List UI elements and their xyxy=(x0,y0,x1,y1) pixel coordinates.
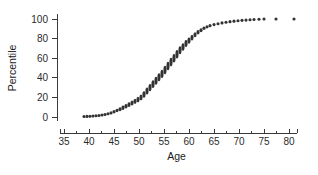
data-point xyxy=(216,22,219,25)
data-point xyxy=(106,112,109,115)
data-point xyxy=(118,107,121,111)
x-tick-label-60: 60 xyxy=(183,136,195,147)
y-axis-title: Percentile xyxy=(6,45,18,92)
x-tick-label-45: 45 xyxy=(108,136,120,147)
data-point xyxy=(240,19,243,22)
data-point xyxy=(175,50,178,58)
y-tick-label-20: 20 xyxy=(37,92,49,103)
data-point-group xyxy=(82,17,295,118)
data-point xyxy=(88,115,91,118)
data-point xyxy=(103,113,106,116)
y-tick-label-60: 60 xyxy=(37,53,49,64)
data-point xyxy=(220,21,223,24)
data-point xyxy=(151,80,154,88)
x-tick-label-80: 80 xyxy=(283,136,295,147)
data-point xyxy=(94,114,97,117)
data-point xyxy=(112,110,115,113)
x-tick-label-40: 40 xyxy=(83,136,95,147)
y-tick-label-40: 40 xyxy=(37,72,49,83)
data-point xyxy=(224,21,227,24)
data-point xyxy=(212,23,215,26)
data-point xyxy=(232,20,235,23)
data-point xyxy=(262,17,265,20)
data-point xyxy=(163,66,166,74)
data-point xyxy=(252,18,255,21)
data-point xyxy=(248,18,251,21)
x-tick-label-55: 55 xyxy=(158,136,170,147)
data-point xyxy=(257,18,260,21)
data-point xyxy=(172,54,175,63)
data-point xyxy=(145,88,148,95)
plot-area: 020406080100Percentile354045505560657075… xyxy=(0,0,318,175)
data-point xyxy=(166,62,169,71)
scatter-chart: 020406080100Percentile354045505560657075… xyxy=(0,0,318,175)
data-point xyxy=(121,105,124,109)
data-point xyxy=(202,27,205,31)
data-point xyxy=(157,73,160,81)
data-point xyxy=(196,30,199,34)
data-point xyxy=(154,77,157,85)
x-tick-label-70: 70 xyxy=(233,136,245,147)
data-point xyxy=(91,114,94,117)
data-point xyxy=(97,114,100,117)
data-point xyxy=(199,28,202,32)
data-point xyxy=(184,40,187,47)
data-point xyxy=(236,19,239,22)
data-point xyxy=(142,91,145,97)
data-point xyxy=(292,17,295,20)
data-point xyxy=(228,20,231,23)
x-tick-label-50: 50 xyxy=(133,136,145,147)
x-tick-label-35: 35 xyxy=(58,136,70,147)
data-point xyxy=(115,109,118,113)
data-point xyxy=(100,113,103,116)
data-point xyxy=(82,115,85,118)
x-tick-label-75: 75 xyxy=(258,136,270,147)
data-point xyxy=(178,46,181,54)
data-point xyxy=(244,19,247,22)
data-point xyxy=(205,25,208,28)
y-tick-label-80: 80 xyxy=(37,33,49,44)
y-tick-label-0: 0 xyxy=(42,112,48,123)
data-point xyxy=(169,58,172,67)
data-point xyxy=(124,104,127,109)
data-point xyxy=(133,99,136,104)
data-point xyxy=(181,43,184,50)
data-point xyxy=(109,111,112,114)
data-point xyxy=(190,35,193,41)
data-point xyxy=(130,100,133,105)
data-point xyxy=(274,17,277,20)
x-tick-label-65: 65 xyxy=(208,136,220,147)
data-point xyxy=(139,95,142,101)
data-point xyxy=(208,24,211,27)
data-point xyxy=(127,102,130,107)
data-point xyxy=(160,70,163,78)
y-tick-label-100: 100 xyxy=(31,14,48,25)
data-point xyxy=(193,32,196,37)
data-point xyxy=(187,37,190,43)
data-point xyxy=(136,97,139,102)
data-point xyxy=(85,115,88,118)
data-point xyxy=(148,84,151,91)
x-axis-title: Age xyxy=(167,150,186,162)
